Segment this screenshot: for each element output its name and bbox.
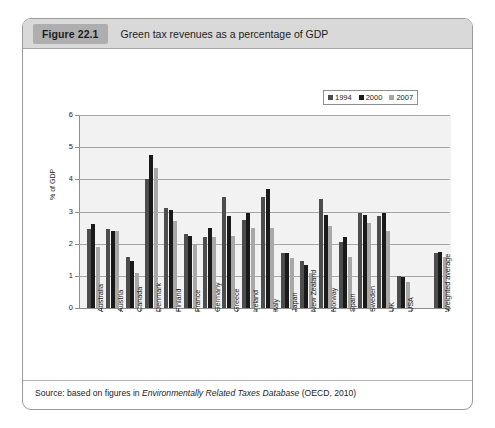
y-axis-tick-label: 3 — [53, 207, 73, 216]
x-axis-category-label: Canada — [135, 287, 144, 312]
bar — [386, 231, 390, 308]
bar — [208, 228, 212, 308]
figure-box: Figure 22.1 Green tax revenues as a perc… — [22, 18, 473, 410]
x-axis-category-label: Germany — [213, 282, 222, 312]
x-axis-category-labels: AustraliaAustriaCanadaDenmarkFinlandFran… — [80, 312, 451, 382]
bar — [397, 276, 401, 308]
bar — [111, 231, 115, 308]
bar-group — [358, 115, 371, 308]
bar — [246, 213, 250, 308]
y-axis-tick — [75, 212, 79, 213]
bar — [87, 229, 91, 308]
bar — [363, 215, 367, 308]
x-axis-category-label: Italy — [271, 299, 280, 312]
bar — [358, 213, 362, 308]
bar — [126, 257, 130, 308]
legend-label: 2000 — [366, 93, 383, 102]
legend-item: 1994 — [328, 93, 352, 102]
legend-swatch-icon — [389, 95, 394, 100]
bar — [227, 216, 231, 308]
y-axis-tick — [75, 244, 79, 245]
y-axis-tick-label: 4 — [53, 174, 73, 183]
y-axis-tick — [75, 276, 79, 277]
bar-group — [106, 115, 119, 308]
legend-swatch-icon — [359, 95, 364, 100]
bar — [91, 224, 95, 308]
bar-group — [377, 115, 390, 308]
y-axis-tick-label: 1 — [53, 271, 73, 280]
x-axis-category-label: Ireland — [251, 290, 260, 312]
bar — [149, 155, 153, 308]
x-axis-category-label: Denmark — [154, 283, 163, 312]
x-axis-category-label: USA — [406, 297, 415, 312]
bar — [184, 234, 188, 308]
bar — [300, 261, 304, 308]
plot-region: 0123456 — [79, 115, 450, 308]
figure-title: Green tax revenues as a percentage of GD… — [121, 28, 329, 40]
bar-series-container — [80, 115, 451, 308]
y-axis-tick — [75, 308, 79, 309]
source-note: Source: based on figures in Environmenta… — [35, 388, 356, 398]
bar — [382, 213, 386, 308]
bar — [188, 236, 192, 308]
x-axis-category-label: Norway — [329, 288, 338, 312]
y-axis-tick-label: 6 — [53, 110, 73, 119]
x-axis-category-label: Austria — [116, 290, 125, 312]
bar — [319, 199, 323, 308]
bar — [324, 215, 328, 308]
bar — [266, 189, 270, 308]
y-axis-tick — [75, 179, 79, 180]
x-axis-category-label: Finland — [174, 288, 183, 312]
y-axis-tick-label: 0 — [53, 303, 73, 312]
y-axis-tick — [75, 147, 79, 148]
source-prefix: Source: based on figures in — [35, 388, 142, 398]
bar-group — [164, 115, 177, 308]
x-axis-category-label: Greece — [232, 288, 241, 312]
bar-group — [281, 115, 294, 308]
bar — [281, 253, 285, 308]
legend-label: 1994 — [335, 93, 352, 102]
chart-legend: 199420002007 — [323, 90, 418, 105]
x-axis-category-label: Australia — [96, 284, 105, 312]
bar — [377, 216, 381, 308]
legend-item: 2007 — [389, 93, 413, 102]
figure-number-tag: Figure 22.1 — [33, 24, 108, 44]
bar — [106, 229, 110, 308]
bar-group — [145, 115, 158, 308]
x-axis-category-label: Japan — [290, 292, 299, 312]
bar-group — [87, 115, 100, 308]
bar — [343, 237, 347, 308]
bar-group — [184, 115, 197, 308]
legend-item: 2000 — [359, 93, 383, 102]
bar — [339, 242, 343, 308]
legend-label: 2007 — [396, 93, 413, 102]
bar-group — [242, 115, 255, 308]
bar — [401, 277, 405, 308]
chart-area: % of GDP 0123456 AustraliaAustriaCanadaD… — [23, 50, 472, 380]
x-axis-category-label: Spain — [348, 294, 357, 312]
y-axis-tick-label: 5 — [53, 142, 73, 151]
bar — [438, 252, 442, 308]
x-axis-category-label: France — [193, 290, 202, 312]
bar-group — [339, 115, 352, 308]
legend-swatch-icon — [328, 95, 333, 100]
y-axis-tick — [75, 115, 79, 116]
bar — [222, 197, 226, 308]
bar-group — [319, 115, 332, 308]
bar-group — [203, 115, 216, 308]
bar-group — [222, 115, 235, 308]
bar — [164, 208, 168, 308]
bar-group — [261, 115, 274, 308]
figure-header: Figure 22.1 Green tax revenues as a perc… — [23, 19, 472, 49]
bar — [304, 265, 308, 308]
bar — [434, 253, 438, 308]
source-database-name: Environmentally Related Taxes Database — [142, 388, 299, 398]
x-axis-category-label: Weighted average — [443, 254, 452, 312]
source-divider — [23, 380, 472, 381]
bar — [261, 197, 265, 308]
x-axis-category-label: UK — [387, 302, 396, 312]
bar — [145, 179, 149, 308]
y-axis-tick-label: 2 — [53, 239, 73, 248]
bar — [242, 220, 246, 308]
bar — [285, 253, 289, 308]
